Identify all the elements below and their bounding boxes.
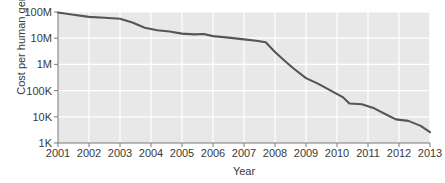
x-tick-label: 2008 [263, 147, 287, 159]
x-tick-label: 2013 [418, 147, 442, 159]
x-axis-ticks: 2001200220032004200520062007200820092010… [0, 0, 445, 183]
x-tick-label: 2003 [108, 147, 132, 159]
x-tick-label: 2011 [356, 147, 380, 159]
x-tick-label: 2009 [294, 147, 318, 159]
x-tick-label: 2010 [325, 147, 349, 159]
x-tick-label: 2004 [139, 147, 163, 159]
chart-container: Cost per human genome ($) Year 100M10M1M… [0, 0, 445, 183]
x-tick-label: 2001 [46, 147, 70, 159]
x-tick-label: 2002 [77, 147, 101, 159]
x-tick-label: 2007 [232, 147, 256, 159]
x-tick-label: 2006 [201, 147, 225, 159]
x-tick-label: 2012 [387, 147, 411, 159]
x-tick-label: 2005 [170, 147, 194, 159]
